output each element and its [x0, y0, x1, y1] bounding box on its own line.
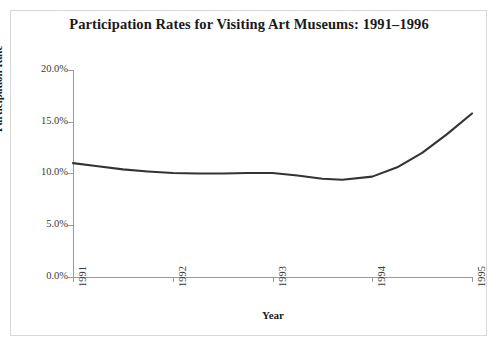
- y-axis-line: [73, 70, 74, 278]
- x-tick-label-1995: 1995: [476, 266, 487, 287]
- chart-title: Participation Rates for Visiting Art Mus…: [0, 16, 498, 33]
- y-tick-mark: [68, 122, 73, 123]
- y-axis-title: Participation Rate: [0, 46, 4, 132]
- y-tick-label: 15.0%: [8, 115, 68, 126]
- y-tick-mark: [68, 225, 73, 226]
- y-tick-label: 20.0%: [8, 63, 68, 74]
- x-tick-label-1993: 1993: [277, 266, 288, 287]
- chart-screenshot: Participation Rates for Visiting Art Mus…: [0, 0, 498, 346]
- x-axis-title: Year: [73, 309, 473, 321]
- y-tick-20: 20.0%: [0, 70, 68, 71]
- y-tick-0: 0.0%: [0, 277, 68, 278]
- y-tick-mark: [68, 173, 73, 174]
- y-tick-label: 0.0%: [8, 270, 68, 281]
- y-tick-5: 5.0%: [0, 225, 68, 226]
- y-tick-15: 15.0%: [0, 122, 68, 123]
- y-tick-10: 10.0%: [0, 173, 68, 174]
- x-tick-mark-1991: [73, 277, 74, 282]
- x-tick-label-1991: 1991: [77, 266, 88, 287]
- x-tick-label-1994: 1994: [376, 266, 387, 287]
- x-tick-mark-1995: [472, 277, 473, 282]
- x-tick-label-1992: 1992: [177, 266, 188, 287]
- x-tick-mark-1992: [173, 277, 174, 282]
- chart-frame: [10, 10, 487, 336]
- y-tick-mark: [68, 70, 73, 71]
- x-tick-mark-1994: [372, 277, 373, 282]
- y-tick-label: 10.0%: [8, 166, 68, 177]
- x-tick-mark-1993: [273, 277, 274, 282]
- y-tick-label: 5.0%: [8, 218, 68, 229]
